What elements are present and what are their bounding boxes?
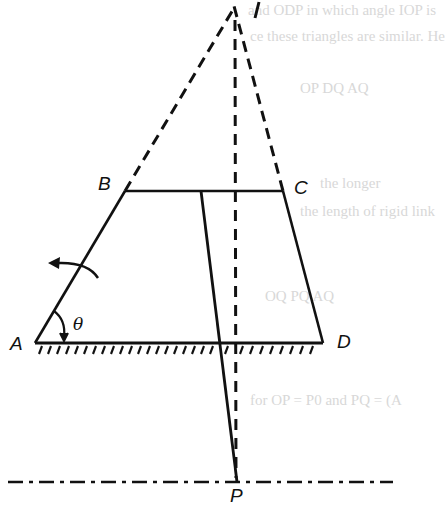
rotation-arrowhead-icon <box>48 257 60 269</box>
ground-hatching <box>39 346 313 354</box>
dashed-extension-dc <box>234 6 283 191</box>
link-cd <box>283 191 323 343</box>
label-c: C <box>294 177 308 198</box>
angle-arrowhead <box>60 333 68 341</box>
label-d: D <box>337 331 351 352</box>
label-theta: θ <box>73 314 83 334</box>
label-i-mark <box>255 2 259 18</box>
label-p: P <box>230 485 243 506</box>
dashed-extension-ab <box>125 8 234 191</box>
dashed-vertical-i-p <box>235 20 236 478</box>
coupler-line-to-p <box>201 191 237 482</box>
label-b: B <box>98 173 111 194</box>
label-a: A <box>9 333 23 354</box>
